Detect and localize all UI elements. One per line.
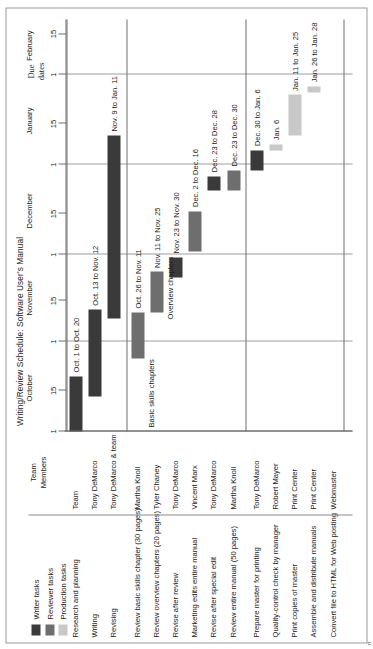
task-name-label: Review basic skills chapter (30 pages)	[130, 508, 144, 637]
gantt-bar-date-label: Jan. 6	[269, 119, 282, 139]
axis-tick-label-5: 15	[48, 209, 57, 217]
gantt-bar[interactable]	[207, 176, 220, 191]
task-name-label: Print copies of master	[287, 564, 301, 637]
task-name-label: Assemble and distribute manuals	[306, 525, 320, 637]
gantt-bar[interactable]	[107, 135, 120, 318]
team-member-label: Print Center	[306, 468, 320, 509]
axis-tick-mark-8	[58, 73, 66, 74]
gantt-bar-date-label: Dec. 23 to Dec. 30	[227, 104, 240, 166]
gantt-bar-date-label: Dec. 23 to Dec. 28	[207, 110, 220, 172]
task-name-label: Research and planning	[68, 559, 82, 637]
legend: Writer tasks Reviewer tasks Production t…	[30, 563, 71, 635]
task-name-label: Review overview chapters (20 pages)	[149, 510, 163, 637]
plot-edge-1	[343, 19, 344, 431]
gantt-bar-date-label: Nov. 9 to Jan. 11	[107, 75, 120, 131]
gantt-bar[interactable]	[188, 211, 201, 252]
axis-month-december: December	[24, 193, 33, 228]
task-name-label: Revise after review	[168, 572, 182, 637]
axis-tick-mark-6	[58, 163, 66, 164]
gantt-bar-date-label: Dec. 2 to Dec. 16	[188, 149, 201, 207]
team-member-label: Robert Mayer	[268, 463, 282, 509]
gantt-bar[interactable]	[69, 376, 82, 431]
team-member-label: Tony DeMarco	[249, 460, 263, 509]
axis-tick-label-2: 1	[48, 339, 57, 343]
task-name-label: Marketing edits entire manual	[187, 537, 201, 637]
label-column-divider	[28, 514, 352, 515]
gantt-bar[interactable]	[131, 312, 144, 358]
axis-tick-label-6: 1	[48, 162, 57, 166]
legend-swatch-writer	[31, 624, 40, 635]
plot-edge-0	[66, 19, 67, 431]
legend-swatch-production	[58, 624, 67, 635]
legend-label-writer: Writer tasks	[31, 579, 40, 619]
gantt-bar[interactable]	[250, 150, 263, 170]
gantt-bar-date-label: Oct. 26 to Nov. 11	[131, 249, 144, 308]
legend-swatch-reviewer	[45, 624, 54, 635]
team-member-label: Vincent Marx	[187, 465, 201, 509]
task-name-label: Revise after special edit	[206, 556, 220, 637]
annotation-overview-chapters: Overview chapters	[163, 256, 177, 319]
team-member-label: Tony DeMarco	[206, 460, 220, 509]
axis-tick-mark-7	[58, 122, 66, 123]
rotated-figure-wrapper: Writing/Review Schedule: Software User's…	[0, 0, 373, 649]
axis-tick-mark-4	[58, 253, 66, 254]
gantt-bar[interactable]	[150, 271, 163, 312]
axis-tick-label-8: 1	[48, 72, 57, 76]
gantt-bar[interactable]	[307, 86, 320, 92]
gantt-bar[interactable]	[269, 144, 282, 150]
column-header-team-members: Team Members	[28, 435, 47, 509]
team-member-label: Tyler Chaney	[149, 464, 163, 509]
axis-tick-mark-3	[58, 299, 66, 300]
legend-item-writer: Writer tasks	[30, 563, 41, 635]
time-axis: OctoberNovemberDecemberJanuaryFebruary 1…	[22, 19, 66, 431]
team-member-label: Tony DeMarco	[87, 460, 101, 509]
team-header-line1: Team	[28, 435, 38, 509]
axis-tick-label-7: 15	[48, 119, 57, 127]
axis-tick-label-9: 15	[48, 29, 57, 37]
team-member-label: Martha Knoll	[226, 466, 240, 509]
gantt-bar-date-label: Jan. 11 to Jan. 25	[288, 31, 301, 90]
task-name-label: Quality-control check by manager	[268, 524, 282, 637]
annotation-basic-skills-chapters: Basic skills chapters	[144, 359, 158, 427]
task-name-label: Convert file to HTML for Web posting	[326, 512, 340, 637]
gantt-chart-canvas: Writing/Review Schedule: Software User's…	[0, 0, 373, 649]
team-member-label: Team	[68, 490, 82, 509]
team-member-label: Print Center	[287, 468, 301, 509]
gantt-bar[interactable]	[88, 309, 101, 396]
legend-label-reviewer: Reviewer tasks	[45, 568, 54, 619]
axis-tick-label-0: 1	[48, 429, 57, 433]
gantt-bar-date-label: Oct. 13 to Nov. 12	[88, 245, 101, 305]
plot-left-axis-line	[64, 430, 352, 431]
plot-area: Oct. 1 to Oct. 20Oct. 13 to Nov. 12Nov. …	[66, 19, 352, 431]
axis-tick-mark-2	[58, 340, 66, 341]
gantt-bar-date-label: Dec. 30 to Jan. 6	[250, 89, 263, 146]
gantt-bar-date-label: Jan. 26 to Jan. 28	[307, 22, 320, 82]
task-name-label: Revising	[106, 608, 120, 637]
axis-tick-label-4: 1	[48, 252, 57, 256]
legend-label-production: Production tasks	[58, 563, 67, 619]
legend-item-production: Production tasks	[57, 563, 68, 635]
axis-tick-label-1: 15	[48, 386, 57, 394]
axis-tick-mark-5	[58, 212, 66, 213]
task-name-label: Review entire manual (50 pages)	[226, 526, 240, 637]
caption-mark: rt	[365, 641, 371, 645]
gantt-bar-date-label: Nov. 23 to Nov. 30	[169, 192, 182, 253]
gantt-bar-date-label: Nov. 11 to Nov. 25	[150, 207, 163, 267]
team-member-label: Webmaster	[326, 470, 340, 509]
axis-month-january: January	[24, 107, 33, 134]
legend-item-reviewer: Reviewer tasks	[44, 563, 55, 635]
task-name-label: Prepare master for printing	[249, 547, 263, 637]
team-member-label: Tony DeMarco & team	[106, 434, 120, 509]
axis-month-february: February	[24, 30, 33, 60]
axis-tick-label-3: 15	[48, 296, 57, 304]
gantt-bar[interactable]	[288, 94, 301, 135]
group-separator-0	[126, 19, 127, 431]
gantt-bar[interactable]	[227, 170, 240, 190]
team-header-line2: Members	[38, 435, 48, 509]
axis-month-october: October	[24, 374, 33, 401]
team-member-label: Martha Knoll	[130, 466, 144, 509]
task-name-label: Writing	[87, 614, 101, 638]
gridline-month-1	[66, 340, 352, 341]
axis-tick-mark-9	[58, 33, 66, 34]
axis-tick-mark-1	[58, 389, 66, 390]
